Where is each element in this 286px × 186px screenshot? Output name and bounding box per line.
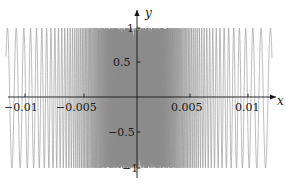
xtick-label-neg-0.005: −0.005	[56, 101, 97, 114]
figure-plot-sin-one-over-x: −0.01 −0.005 0.005 0.01 1 0.5 −0.5 −1 x …	[0, 0, 286, 186]
ytick-label-neg-1: −1	[122, 162, 138, 175]
plot-canvas	[0, 0, 286, 186]
ytick-label-1: 1	[127, 22, 134, 35]
curve-sin-one-over-x	[6, 28, 272, 168]
xtick-label-0.01: 0.01	[235, 101, 260, 114]
y-axis-label: y	[145, 6, 152, 20]
xtick-label-0.005: 0.005	[171, 101, 203, 114]
ytick-label-0.5: 0.5	[113, 56, 131, 69]
ytick-label-neg-0.5: −0.5	[108, 126, 135, 139]
xtick-label-neg-0.01: −0.01	[4, 101, 38, 114]
x-axis-label: x	[277, 94, 284, 108]
